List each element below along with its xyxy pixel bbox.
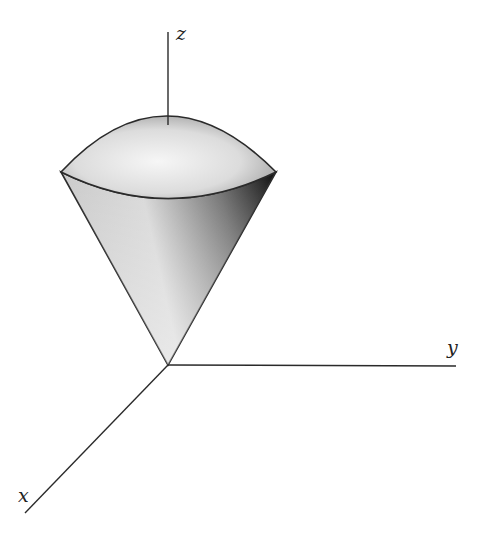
spherical-cap [61,116,276,199]
x-axis [25,365,168,513]
z-axis-label: z [175,22,187,44]
y-axis-label: y [446,336,458,358]
cone-highlight [61,172,276,365]
x-axis-label: x [18,484,29,506]
ice-cream-cone-diagram: z y x [0,0,485,547]
y-axis [168,365,456,366]
